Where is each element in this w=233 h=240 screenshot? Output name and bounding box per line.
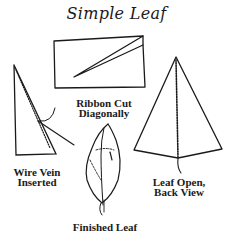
- leaf-open-figure: [134, 57, 222, 173]
- ribbon-label-line2: Diagonally: [64, 108, 144, 118]
- wire-vein-label-line2: Inserted: [2, 177, 72, 187]
- wire-vein-label: Wire Vein Inserted: [2, 167, 72, 187]
- ribbon-cut-label: Ribbon Cut Diagonally: [64, 98, 144, 118]
- leaf-open-label-line2: Back View: [144, 187, 214, 197]
- simple-leaf-diagram: Simple Leaf: [0, 0, 233, 240]
- illustrations: [0, 0, 233, 240]
- ribbon-cut-figure: [54, 36, 145, 88]
- leaf-open-label: Leaf Open, Back View: [144, 177, 214, 197]
- finished-leaf-label: Finished Leaf: [58, 222, 152, 232]
- finished-leaf-figure: [86, 124, 120, 215]
